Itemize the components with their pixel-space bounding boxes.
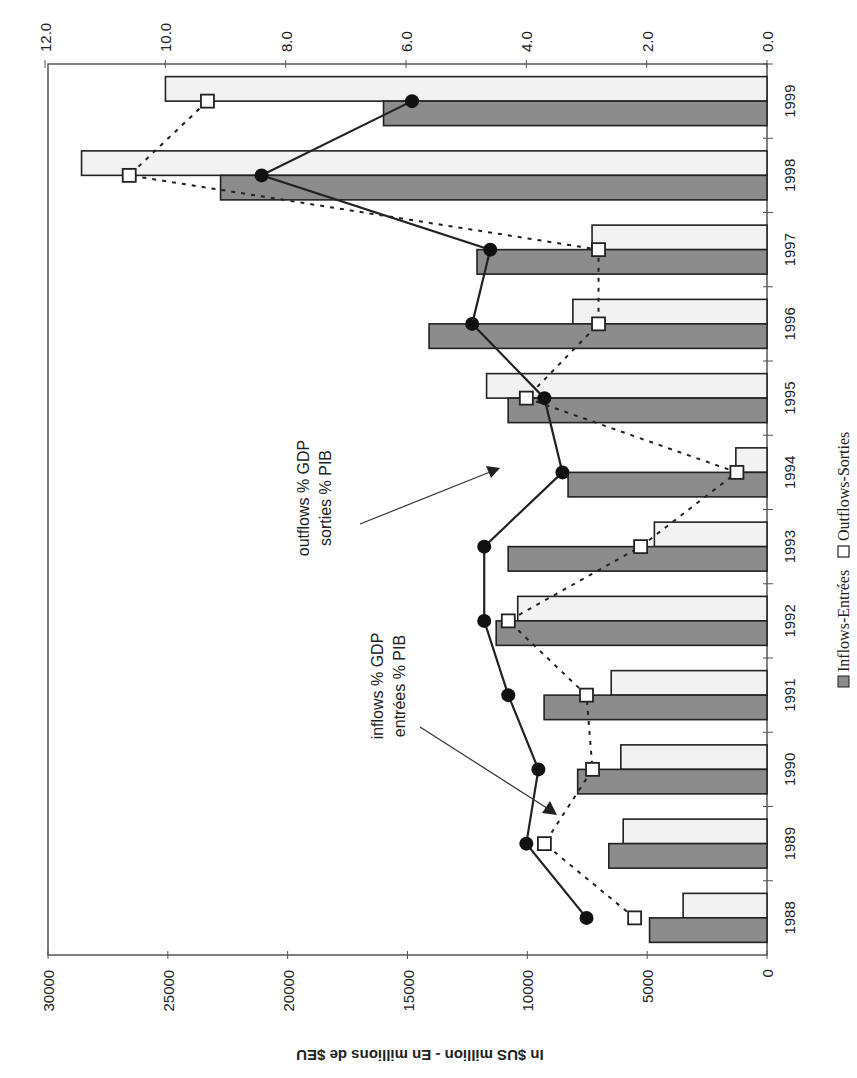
bar-inflows (578, 769, 767, 794)
bar-outflows (165, 77, 767, 102)
marker-circle-icon (519, 837, 533, 851)
marker-square-icon (123, 169, 136, 182)
secondary-tick-label: 4.0 (518, 31, 535, 52)
legend-swatch-inflows (838, 676, 849, 687)
marker-circle-icon (465, 317, 479, 331)
primary-tick-label: 0 (759, 969, 776, 977)
marker-square-icon (201, 95, 214, 108)
chart: 050001000015000200002500030000 0.02.04.0… (0, 0, 857, 1078)
category-label: 1997 (781, 233, 798, 266)
marker-square-icon (502, 614, 515, 627)
bar-outflows (683, 893, 767, 918)
annotation-inflows-line2: entrées % PIB (391, 635, 408, 737)
legend: Inflows-Entrées Outflows-Sorties (835, 432, 852, 687)
bar-inflows (544, 695, 767, 720)
category-label: 1994 (781, 456, 798, 489)
secondary-tick-label: 2.0 (639, 31, 656, 52)
bar-inflows (496, 621, 767, 646)
category-label: 1992 (781, 604, 798, 637)
marker-circle-icon (501, 688, 515, 702)
primary-tick-label: 15000 (400, 970, 417, 1012)
secondary-tick-label: 0.0 (759, 31, 776, 52)
marker-circle-icon (537, 391, 551, 405)
bar-inflows (609, 844, 767, 869)
secondary-tick-label: 10.0 (157, 23, 174, 52)
bar-outflows (654, 522, 767, 547)
marker-circle-icon (555, 465, 569, 479)
marker-square-icon (580, 689, 593, 702)
primary-tick-label: 30000 (40, 970, 57, 1012)
category-label: 1993 (781, 530, 798, 563)
primary-axis-title: In $US million - En millions de $EU (296, 1047, 544, 1064)
category-label: 1998 (781, 159, 798, 192)
annotation-inflows-line1: inflows % GDP (369, 633, 386, 740)
marker-circle-icon (477, 540, 491, 554)
marker-circle-icon (477, 614, 491, 628)
legend-label-outflows: Outflows-Sorties (835, 432, 852, 541)
legend-label-inflows: Inflows-Entrées (835, 570, 852, 672)
marker-square-icon (730, 466, 743, 479)
primary-tick-label: 10000 (519, 970, 536, 1012)
bar-inflows (477, 250, 767, 275)
marker-square-icon (520, 392, 533, 405)
primary-tick-label: 5000 (639, 970, 656, 1003)
secondary-tick-label: 8.0 (278, 31, 295, 52)
category-label: 1999 (781, 84, 798, 117)
category-labels: 1988198919901991199219931994199519961997… (763, 64, 798, 935)
legend-swatch-outflows (838, 546, 849, 557)
marker-circle-icon (580, 911, 594, 925)
category-label: 1989 (781, 827, 798, 860)
marker-circle-icon (255, 168, 269, 182)
marker-square-icon (634, 540, 647, 553)
primary-axis-ticks: 050001000015000200002500030000 (40, 951, 776, 1012)
marker-square-icon (586, 763, 599, 776)
marker-circle-icon (531, 762, 545, 776)
annotation-outflows-line2: sorties % PIB (317, 450, 334, 546)
marker-circle-icon (405, 94, 419, 108)
annotation-outflows-line1: outflows % GDP (295, 440, 312, 556)
primary-tick-label: 20000 (280, 970, 297, 1012)
category-label: 1988 (781, 901, 798, 934)
secondary-tick-label: 12.0 (37, 23, 54, 52)
marker-circle-icon (483, 243, 497, 257)
secondary-tick-label: 6.0 (398, 31, 415, 52)
marker-square-icon (628, 911, 641, 924)
bar-outflows (621, 745, 767, 770)
marker-square-icon (592, 243, 605, 256)
bar-outflows (592, 225, 767, 250)
category-label: 1996 (781, 307, 798, 340)
marker-square-icon (592, 317, 605, 330)
bar-outflows (518, 596, 767, 621)
marker-square-icon (538, 837, 551, 850)
category-label: 1990 (781, 753, 798, 786)
primary-tick-label: 25000 (160, 970, 177, 1012)
bar-outflows (623, 819, 767, 844)
bar-inflows (384, 101, 767, 126)
category-label: 1995 (781, 381, 798, 414)
category-label: 1991 (781, 678, 798, 711)
bar-outflows (82, 151, 767, 176)
bar-inflows (650, 918, 767, 943)
secondary-axis-ticks: 0.02.04.06.08.010.012.0 (37, 23, 776, 68)
bar-outflows (611, 671, 767, 696)
